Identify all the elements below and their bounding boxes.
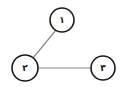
- node-2: ٢: [12, 55, 38, 81]
- node-1-label: ١: [59, 15, 65, 25]
- node-3-label: ٣: [100, 63, 106, 73]
- node-2-label: ٢: [22, 63, 28, 73]
- node-1: ١: [50, 8, 74, 32]
- edge-1-2: [33, 30, 56, 58]
- graph-diagram: ١ ٢ ٣: [0, 0, 121, 87]
- node-3: ٣: [91, 56, 115, 80]
